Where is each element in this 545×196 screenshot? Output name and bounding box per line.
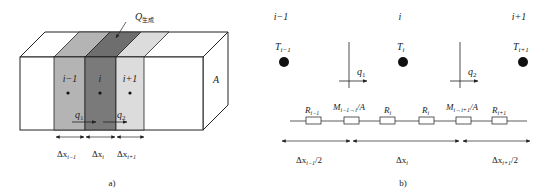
node-index-i-minus-1: i−1: [274, 11, 289, 22]
figure-b-network: i−1 i i+1 Ti−1 Ti Ti+1 q1 q2 Ri−1 Mi−1→i…: [274, 11, 530, 188]
resistor-label-1: Ri−1: [304, 105, 319, 116]
flux-label-q1: q1: [357, 66, 366, 79]
cell-label-i-plus-1: i+1: [123, 73, 138, 84]
width-label-i: Δxi: [92, 149, 104, 160]
resistor-label-6: Ri+1: [491, 105, 506, 116]
cell-label-i: i: [99, 73, 102, 84]
width-label-i-plus-1: Δxi+1: [117, 149, 136, 160]
resistor-label-4: Ri: [421, 105, 430, 116]
resistor-m-contact-2: [456, 117, 471, 124]
cell-node-dot: [66, 91, 69, 94]
area-label: A: [212, 74, 220, 85]
resistor-label-3: Ri: [383, 105, 392, 116]
node-dot-i-plus-1: [518, 57, 528, 67]
temp-label-i: Ti: [397, 41, 405, 54]
span-label-right: Δxi+1/2: [492, 155, 518, 166]
figure-canvas: i−1 i i+1 q1 q2 Q生成 A Δxi−1 Δxi Δxi+1 a)…: [0, 0, 545, 196]
caption-a: a): [109, 178, 116, 188]
node-index-i-plus-1: i+1: [512, 11, 527, 22]
width-label-i-minus-1: Δxi−1: [57, 149, 76, 160]
heat-gen-label: Q生成: [135, 11, 154, 24]
span-label-left: Δxi−1/2: [296, 155, 322, 166]
flux-label-q2: q2: [468, 66, 477, 79]
span-label-center: Δxi: [396, 155, 408, 166]
figure-a-box: i−1 i i+1 q1 q2 Q生成 A Δxi−1 Δxi Δxi+1 a): [20, 11, 228, 188]
temp-label-i-minus-1: Ti−1: [275, 41, 291, 54]
node-index-i: i: [399, 11, 402, 22]
resistor-m-contact-1: [344, 117, 359, 124]
node-dot-i: [398, 57, 408, 67]
resistor-r-i-minus-1: [306, 117, 321, 124]
resistor-r-i-right: [419, 117, 434, 124]
node-dot-i-minus-1: [279, 57, 289, 67]
resistor-r-i-plus-1: [492, 117, 507, 124]
caption-b: b): [399, 178, 407, 188]
resistor-label-2: Mi−1→i/A: [332, 102, 365, 113]
resistor-label-5: Mi→i+1/A: [445, 102, 478, 113]
temp-label-i-plus-1: Ti+1: [513, 41, 529, 54]
cell-label-i-minus-1: i−1: [63, 73, 78, 84]
cell-node-dot: [98, 91, 101, 94]
resistor-r-i-left: [380, 117, 395, 124]
cell-node-dot: [128, 91, 131, 94]
